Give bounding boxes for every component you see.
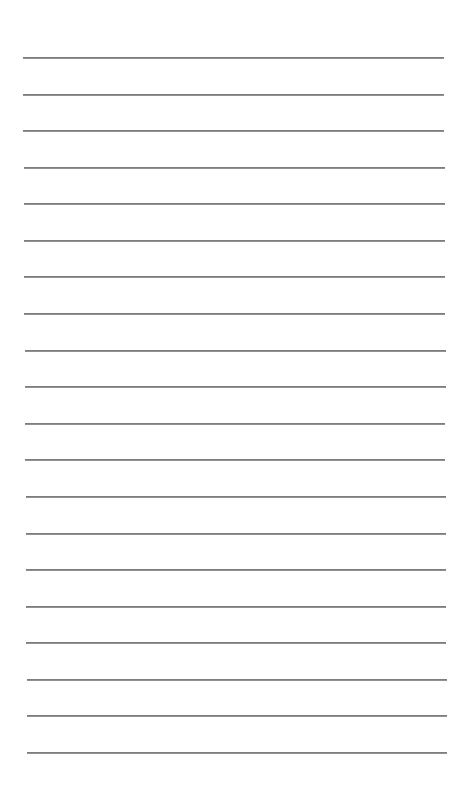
ruled-line xyxy=(25,423,445,425)
ruled-line xyxy=(27,752,447,754)
ruled-line xyxy=(26,496,446,498)
ruled-line xyxy=(24,203,445,205)
ruled-line xyxy=(27,715,447,717)
ruled-line xyxy=(23,130,444,132)
ruled-line xyxy=(23,94,444,96)
ruled-line xyxy=(27,679,447,681)
ruled-line xyxy=(23,57,444,59)
ruled-line xyxy=(26,606,446,608)
ruled-line xyxy=(26,642,446,644)
ruled-line xyxy=(24,276,445,278)
ruled-line xyxy=(24,240,445,242)
ruled-line xyxy=(26,569,446,571)
ruled-line xyxy=(25,459,445,461)
ruled-line xyxy=(24,313,445,315)
ruled-line xyxy=(25,350,446,352)
lined-paper-page xyxy=(0,0,466,806)
ruled-line xyxy=(24,167,445,169)
ruled-line xyxy=(26,533,446,535)
ruled-line xyxy=(25,386,446,388)
